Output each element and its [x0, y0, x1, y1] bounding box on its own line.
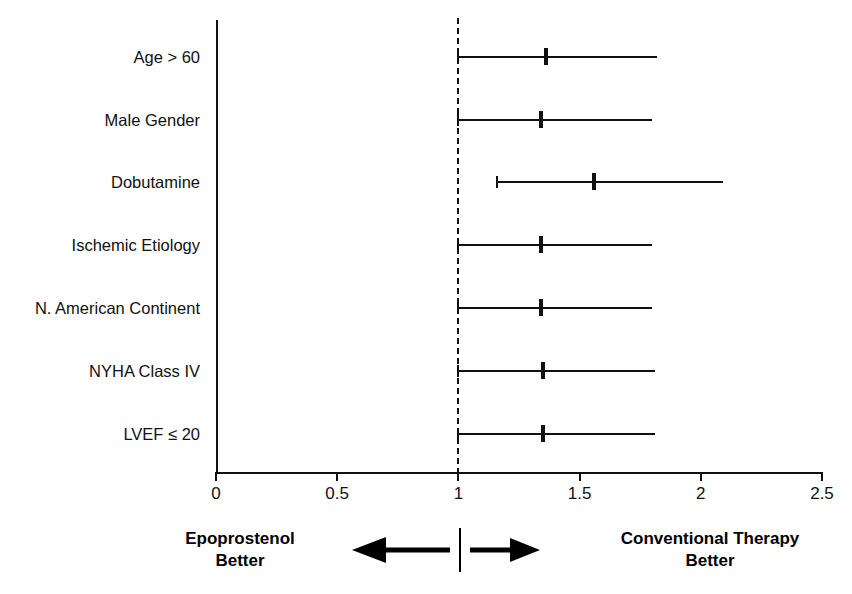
- row-label: Male Gender: [105, 110, 200, 130]
- point-estimate-marker: [541, 425, 545, 442]
- confidence-interval-line: [497, 181, 722, 183]
- x-axis-tick-label: 0.5: [307, 484, 367, 504]
- x-axis-tick-label: 1: [428, 484, 488, 504]
- row-label: Age > 60: [133, 47, 200, 67]
- arrow-right-icon: [470, 534, 540, 566]
- confidence-interval-line: [458, 56, 657, 58]
- x-axis-tick: [579, 472, 581, 481]
- legend-left-line2: Better: [150, 550, 330, 572]
- legend-left-line1: Epoprostenol: [150, 528, 330, 550]
- ci-lower-cap: [496, 176, 498, 188]
- point-estimate-marker: [544, 48, 548, 65]
- x-axis-tick: [700, 472, 702, 481]
- confidence-interval-line: [458, 119, 652, 121]
- forest-plot-figure: 00.511.522.5 Age > 60Male GenderDobutami…: [0, 0, 852, 594]
- ci-lower-cap: [457, 365, 459, 377]
- x-axis-line: [216, 472, 823, 474]
- x-axis-tick: [215, 472, 217, 481]
- row-label: NYHA Class IV: [89, 361, 200, 381]
- legend-left: Epoprostenol Better: [150, 528, 330, 572]
- ci-lower-cap: [457, 51, 459, 63]
- x-axis-tick-label: 1.5: [550, 484, 610, 504]
- row-label: Ischemic Etiology: [72, 235, 200, 255]
- plot-area: 00.511.522.5 Age > 60Male GenderDobutami…: [0, 0, 852, 594]
- confidence-interval-line: [458, 370, 654, 372]
- ci-lower-cap: [457, 302, 459, 314]
- point-estimate-marker: [539, 236, 543, 253]
- ci-lower-cap: [457, 239, 459, 251]
- confidence-interval-line: [458, 307, 652, 309]
- point-estimate-marker: [539, 111, 543, 128]
- legend-divider: [459, 528, 461, 572]
- x-axis-tick-label: 2: [671, 484, 731, 504]
- x-axis-tick-label: 2.5: [792, 484, 852, 504]
- row-label: Dobutamine: [111, 172, 200, 192]
- y-axis-line: [216, 20, 218, 474]
- confidence-interval-line: [458, 244, 652, 246]
- row-label: N. American Continent: [35, 298, 200, 318]
- point-estimate-marker: [541, 362, 545, 379]
- legend-right: Conventional Therapy Better: [590, 528, 830, 572]
- x-axis-tick: [336, 472, 338, 481]
- arrow-left-icon: [352, 534, 452, 566]
- legend-right-line2: Better: [590, 550, 830, 572]
- x-axis-tick-label: 0: [186, 484, 246, 504]
- ci-lower-cap: [457, 114, 459, 126]
- point-estimate-marker: [539, 299, 543, 316]
- row-label: LVEF ≤ 20: [123, 424, 200, 444]
- x-axis-tick: [457, 472, 459, 481]
- ci-lower-cap: [457, 428, 459, 440]
- point-estimate-marker: [592, 173, 596, 190]
- legend-right-line1: Conventional Therapy: [590, 528, 830, 550]
- confidence-interval-line: [458, 433, 654, 435]
- x-axis-tick: [821, 472, 823, 481]
